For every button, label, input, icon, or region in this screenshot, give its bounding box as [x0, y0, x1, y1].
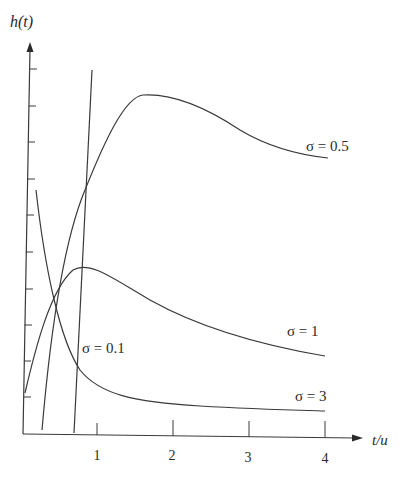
x-ticks: [97, 420, 325, 437]
plot-area: [0, 0, 406, 480]
series-label-sigma-0-1: σ = 0.1: [82, 341, 125, 356]
x-axis-label: t/u: [372, 433, 388, 448]
curve-sigma-0-1: [74, 70, 92, 433]
x-tick-label-1: 1: [94, 449, 101, 463]
y-axis-arrow-icon: [27, 42, 34, 52]
x-axis: [23, 434, 356, 438]
series-label-sigma-3: σ = 3: [295, 389, 327, 404]
series-label-sigma-1: σ = 1: [287, 324, 319, 339]
curve-sigma-3: [36, 190, 325, 411]
series-label-sigma-0-5: σ = 0.5: [306, 139, 349, 154]
y-ticks: [23, 69, 37, 397]
x-tick-label-3: 3: [245, 451, 252, 465]
curve-sigma-1: [25, 267, 325, 393]
y-axis-label: h(t): [10, 14, 33, 30]
x-axis-arrow-icon: [352, 435, 363, 442]
x-tick-label-4: 4: [322, 452, 329, 466]
x-tick-label-2: 2: [169, 449, 176, 463]
curve-sigma-0-5: [42, 95, 328, 430]
